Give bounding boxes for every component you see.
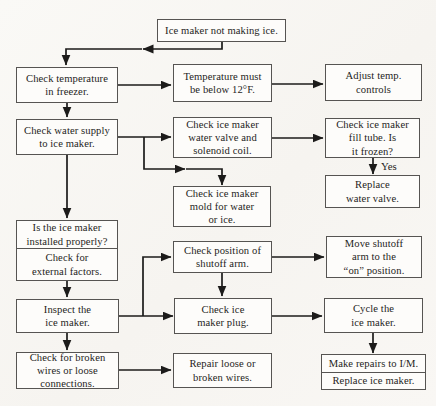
edge-start-to-check-temp-tail xyxy=(66,49,142,65)
node-cycle-ice-maker: Cycle the ice maker. xyxy=(324,298,423,333)
node-repair-wires: Repair loose or broken wires. xyxy=(173,353,272,388)
edge-label-yes: Yes xyxy=(381,161,397,172)
node-replace-water-valve: Replace water valve. xyxy=(325,175,420,208)
node-check-shutoff-position: Check position of shutoff arm. xyxy=(173,241,272,273)
node-check-temperature: Check temperature in freezer. xyxy=(16,67,118,103)
node-check-broken-wires: Check for broken wires or loose connecti… xyxy=(16,352,119,389)
node-check-fill-tube: Check ice maker fill tube. Is it frozen? xyxy=(325,118,420,158)
edge-start-to-check-temp-head xyxy=(143,41,222,49)
node-final-actions-group: Make repairs to I/M. Replace ice maker. xyxy=(321,354,426,390)
node-check-plug: Check ice maker plug. xyxy=(174,298,272,334)
edge-inspect-to-shutoff xyxy=(143,257,171,316)
node-inspect-ice-maker: Inspect the ice maker. xyxy=(16,299,119,333)
node-ice-maker-not-making-ice: Ice maker not making ice. xyxy=(157,19,286,42)
node-move-shutoff-arm: Move shutoff arm to the “on” position. xyxy=(326,236,422,278)
node-temperature-must-be-below: Temperature must be below 12°F. xyxy=(173,64,272,102)
node-check-water-valve-solenoid: Check ice maker water valve and solenoid… xyxy=(173,117,272,158)
node-check-water-supply: Check water supply to ice maker. xyxy=(16,119,118,155)
node-replace-ice-maker: Replace ice maker. xyxy=(322,373,425,389)
edge-branch-to-mold-tail xyxy=(186,169,222,185)
node-check-mold: Check ice maker mold for water or ice. xyxy=(173,186,271,227)
node-check-external-factors: Check for external factors. xyxy=(17,249,117,280)
node-installed-properly: Is the ice maker installed properly? xyxy=(17,221,117,249)
node-make-repairs: Make repairs to I/M. xyxy=(322,355,425,373)
node-installed-properly-group: Is the ice maker installed properly? Che… xyxy=(16,220,118,281)
node-adjust-temp-controls: Adjust temp. controls xyxy=(325,64,422,101)
flowchart-canvas: Ice maker not making ice. Check temperat… xyxy=(0,0,436,406)
